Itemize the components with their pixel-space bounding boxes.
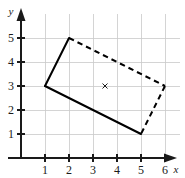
y-tick-label-5: 5 [8,31,14,45]
x-tick-label-2: 2 [66,163,72,177]
x-tick-labels: 1 2 3 4 5 6 [42,163,168,177]
coordinate-plane-figure: 1 2 3 4 5 6 1 2 3 4 5 y x [0,0,185,178]
y-tick-label-4: 4 [8,55,14,69]
x-tick-label-3: 3 [90,163,96,177]
x-tick-label-4: 4 [114,163,120,177]
y-axis-arrowhead [17,8,26,21]
x-tick-label-6: 6 [162,163,168,177]
axes [8,8,177,163]
x-tick-label-5: 5 [138,163,144,177]
x-tick-label-1: 1 [42,163,48,177]
y-axis-label: y [8,5,14,17]
y-tick-label-2: 2 [8,103,14,117]
y-tick-label-1: 1 [8,127,14,141]
y-tick-labels: 1 2 3 4 5 [8,31,14,141]
plot-svg: 1 2 3 4 5 6 1 2 3 4 5 y x [0,0,185,178]
y-tick-label-3: 3 [8,79,14,93]
x-axis-arrowhead [164,154,177,163]
x-axis-label: x [173,163,179,175]
